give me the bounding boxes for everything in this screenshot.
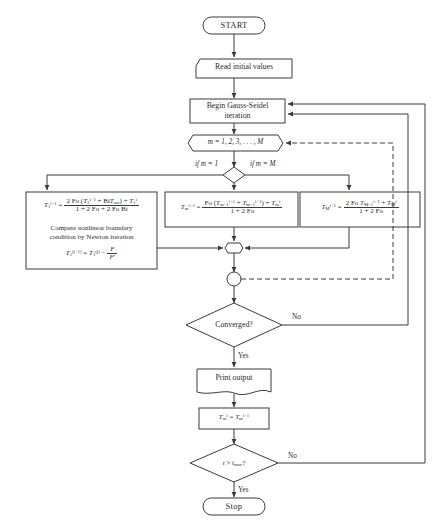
start-terminator-shape [203,17,265,34]
edge-branch-to-right-box [245,175,349,190]
edge-time-no-feedback [278,104,425,463]
branch-diamond-shape [223,167,245,183]
loop-hexagon-shape [188,135,283,151]
box-mid-shape [165,192,298,227]
print-output-shape [197,369,271,395]
time-check-diamond-shape [190,444,278,482]
edge-right-to-junction [245,227,349,248]
flowchart-canvas [0,0,442,530]
begin-iteration-shape [190,99,285,123]
read-input-shape [196,59,292,78]
connector-circle-shape [227,272,241,286]
merge-junction-shape [225,243,243,253]
edge-branch-to-left-box [47,175,223,190]
box-right-shape [300,192,420,227]
box-left-shape [26,192,157,269]
converged-diamond-shape [186,303,282,347]
assign-box-shape [199,408,269,429]
stop-terminator-shape [203,498,265,515]
